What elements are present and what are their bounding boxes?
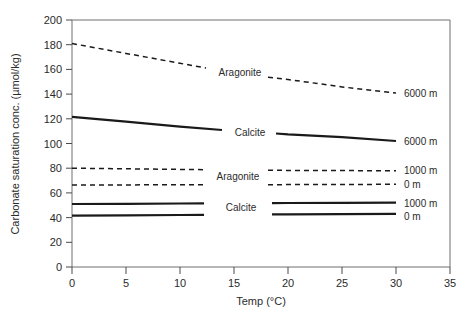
x-tick-label: 5 xyxy=(123,277,129,289)
y-axis-title: Carbonate saturation conc. (µmol/kg) xyxy=(9,53,21,234)
depth-label-calcite-1000m: 1000 m xyxy=(404,198,437,209)
depth-label-calcite-0m: 0 m xyxy=(404,211,421,222)
depth-label-calcite-6000m: 6000 m xyxy=(404,136,437,147)
series-line xyxy=(72,203,204,204)
annotation-calcite-shallow: Calcite xyxy=(226,202,257,213)
series-calcite-0m xyxy=(72,214,396,216)
y-tick-label: 100 xyxy=(44,138,62,150)
series-line xyxy=(272,214,396,215)
y-tick-label: 200 xyxy=(44,14,62,26)
plot-frame xyxy=(72,20,450,267)
y-tick-label: 0 xyxy=(56,261,62,273)
depth-label-aragonite-6000m: 6000 m xyxy=(404,88,437,99)
x-tick-label: 20 xyxy=(282,277,294,289)
y-axis-tick-labels: 200 180 160 140 120 100 80 60 40 20 0 xyxy=(44,14,62,273)
x-tick-label: 10 xyxy=(174,277,186,289)
series-line xyxy=(72,117,222,130)
depth-label-aragonite-0m: 0 m xyxy=(404,179,421,190)
y-axis-ticks xyxy=(66,20,72,267)
x-tick-label: 35 xyxy=(444,277,456,289)
series-line xyxy=(72,168,204,170)
annotation-aragonite-shallow: Aragonite xyxy=(217,171,260,182)
x-axis-title: Temp (°C) xyxy=(236,295,286,307)
depth-label-aragonite-1000m: 1000 m xyxy=(404,165,437,176)
x-axis-ticks xyxy=(72,267,450,274)
series-line xyxy=(72,215,204,216)
x-tick-label: 0 xyxy=(69,277,75,289)
y-tick-label: 40 xyxy=(50,212,62,224)
y-tick-label: 160 xyxy=(44,63,62,75)
y-tick-label: 60 xyxy=(50,187,62,199)
y-tick-label: 180 xyxy=(44,39,62,51)
series-line xyxy=(72,44,206,69)
y-tick-label: 140 xyxy=(44,88,62,100)
y-tick-label: 120 xyxy=(44,113,62,125)
carbonate-saturation-line-chart: 200 180 160 140 120 100 80 60 40 20 0 0 xyxy=(0,0,471,320)
chart-figure: 200 180 160 140 120 100 80 60 40 20 0 0 xyxy=(0,0,471,320)
y-tick-label: 20 xyxy=(50,236,62,248)
annotation-calcite-6000m: Calcite xyxy=(235,127,266,138)
series-aragonite-0m xyxy=(72,184,396,185)
x-axis-tick-labels: 0 5 10 15 20 25 30 35 xyxy=(69,277,456,289)
y-tick-label: 80 xyxy=(50,162,62,174)
annotation-aragonite-6000m: Aragonite xyxy=(219,67,262,78)
x-tick-label: 25 xyxy=(336,277,348,289)
x-tick-label: 15 xyxy=(228,277,240,289)
series-line xyxy=(276,134,396,142)
series-line xyxy=(268,77,396,93)
x-tick-label: 30 xyxy=(390,277,402,289)
